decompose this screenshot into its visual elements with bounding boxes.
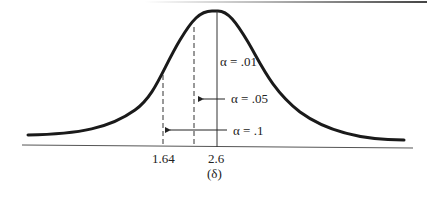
label-alpha-01: α = .01 [220, 54, 257, 69]
normal-curve-diagram: α = .01 α = .05 α = .1 1.64 2.6 (δ) [0, 0, 433, 197]
top-rule [145, 1, 427, 3]
label-alpha-1: α = .1 [233, 123, 263, 138]
label-alpha-05: α = .05 [231, 91, 268, 106]
axis-label-delta: (δ) [207, 166, 222, 181]
tick-label-2-6: 2.6 [208, 151, 225, 166]
tick-label-1-64: 1.64 [152, 151, 175, 166]
bell-curve [28, 11, 404, 140]
